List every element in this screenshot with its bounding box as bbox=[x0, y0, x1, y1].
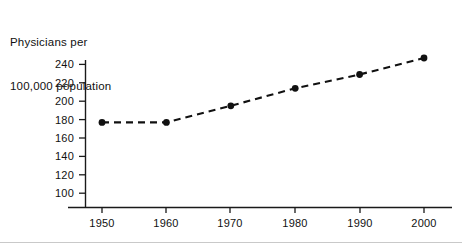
x-tick-label-1970: 1970 bbox=[217, 217, 242, 229]
series-line-dashed bbox=[102, 58, 424, 122]
data-series-physicians bbox=[99, 55, 428, 126]
series-markers bbox=[99, 55, 428, 126]
x-tick-label-1990: 1990 bbox=[347, 217, 372, 229]
data-point-1990 bbox=[356, 71, 363, 78]
y-tick-label-200: 200 bbox=[55, 95, 74, 107]
footer-divider bbox=[0, 242, 462, 243]
y-tick-label-180: 180 bbox=[55, 114, 74, 126]
y-tick-label-240: 240 bbox=[55, 58, 74, 70]
line-chart: 240 220 200 180 160 140 120 100 1950 bbox=[0, 0, 462, 250]
y-tick-label-160: 160 bbox=[55, 132, 74, 144]
x-tick-label-1950: 1950 bbox=[89, 217, 114, 229]
data-point-1960 bbox=[163, 119, 170, 126]
x-tick-label-1980: 1980 bbox=[282, 217, 307, 229]
y-tick-label-120: 120 bbox=[55, 169, 74, 181]
x-tick-marks bbox=[102, 208, 424, 214]
y-tick-label-220: 220 bbox=[55, 77, 74, 89]
data-point-1970 bbox=[227, 102, 234, 109]
x-axis: 1950 1960 1970 1980 1990 2000 bbox=[68, 208, 452, 230]
y-tick-label-140: 140 bbox=[55, 150, 74, 162]
data-point-1980 bbox=[292, 85, 299, 92]
x-tick-label-1960: 1960 bbox=[153, 217, 178, 229]
chart-page: Physicians per 100,000 population 240 22… bbox=[0, 0, 462, 250]
x-tick-label-2000: 2000 bbox=[411, 217, 436, 229]
y-tick-marks bbox=[79, 64, 86, 193]
y-tick-labels: 240 220 200 180 160 140 120 100 bbox=[55, 58, 74, 199]
data-point-2000 bbox=[421, 55, 428, 62]
data-point-1950 bbox=[99, 119, 106, 126]
x-tick-labels: 1950 1960 1970 1980 1990 2000 bbox=[89, 217, 436, 229]
y-tick-label-100: 100 bbox=[55, 187, 74, 199]
y-axis: 240 220 200 180 160 140 120 100 bbox=[55, 58, 85, 207]
